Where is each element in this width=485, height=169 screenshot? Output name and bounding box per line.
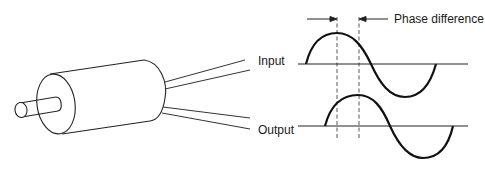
- arrow-left-icon: [359, 17, 366, 22]
- cylinder-device: [14, 60, 166, 136]
- output-wires: [162, 107, 250, 129]
- input-label: Input: [258, 54, 285, 68]
- arrow-right-icon: [330, 17, 337, 22]
- output-label: Output: [258, 123, 295, 137]
- phase-difference-label: Phase difference: [394, 12, 484, 26]
- input-wave: [306, 33, 436, 97]
- phase-difference-diagram: Input Output Phase difference: [0, 0, 485, 169]
- phase-arrows: [307, 17, 388, 22]
- input-wires: [165, 60, 250, 89]
